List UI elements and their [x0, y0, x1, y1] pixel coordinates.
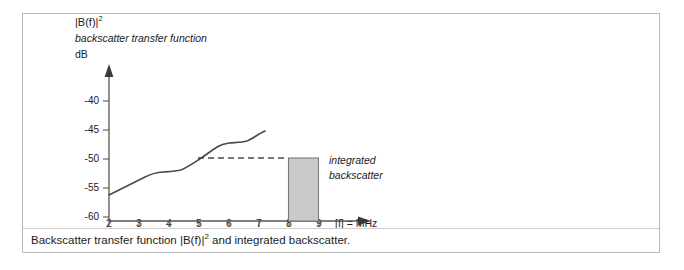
axes-group	[105, 64, 371, 225]
caption-prefix: Backscatter transfer function	[31, 234, 180, 246]
caption-suffix: and integrated backscatter.	[209, 234, 350, 246]
plot-area: |B(f)|2 backscatter transfer function dB…	[23, 14, 661, 229]
y-axis-arrowhead	[105, 64, 114, 77]
x-axis-ticks	[109, 221, 319, 227]
x-axis-arrowhead	[358, 217, 371, 226]
figure-caption: Backscatter transfer function |B(f)|2 an…	[31, 234, 350, 246]
backscatter-transfer-function-curve	[109, 131, 265, 195]
figure-frame: |B(f)|2 backscatter transfer function dB…	[22, 13, 660, 253]
plot-svg	[23, 14, 661, 229]
y-axis-ticks	[103, 101, 109, 217]
caption-divider	[23, 228, 661, 229]
caption-symbol: |B(f)|	[180, 234, 205, 246]
integrated-backscatter-bar	[289, 158, 319, 221]
